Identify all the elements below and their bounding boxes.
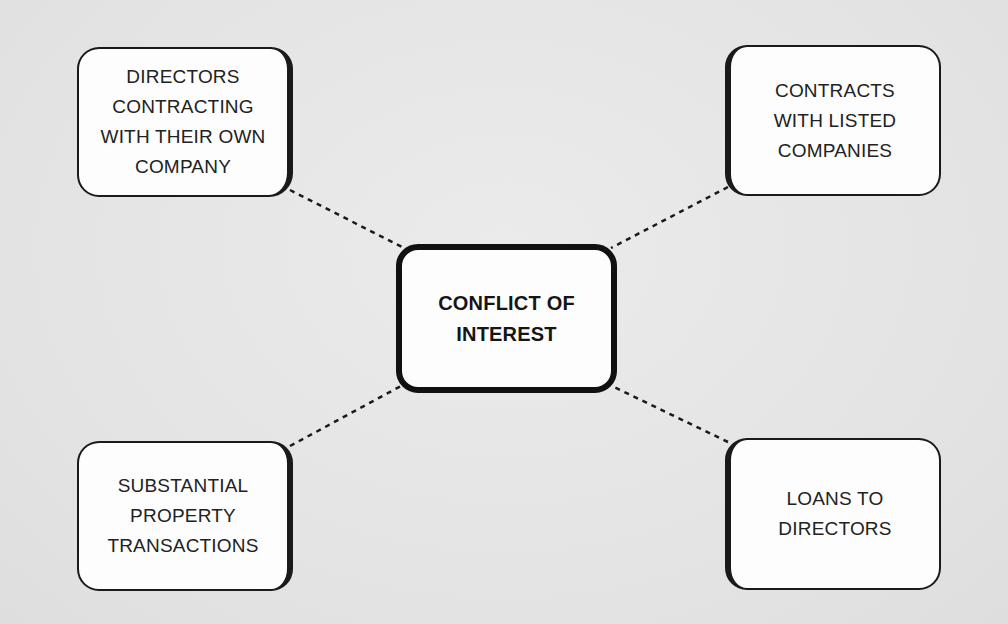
- node-contracts-listed-companies: CONTRACTS WITH LISTED COMPANIES: [725, 45, 941, 196]
- node-loans-to-directors: LOANS TO DIRECTORS: [725, 438, 941, 590]
- connector-bottom-right: [614, 387, 728, 442]
- central-node-label: CONFLICT OF INTEREST: [438, 288, 575, 350]
- node-label: SUBSTANTIAL PROPERTY TRANSACTIONS: [107, 471, 258, 561]
- node-directors-contracting: DIRECTORS CONTRACTING WITH THEIR OWN COM…: [77, 47, 293, 197]
- central-node-conflict-of-interest: CONFLICT OF INTEREST: [396, 244, 617, 393]
- node-label: DIRECTORS CONTRACTING WITH THEIR OWN COM…: [101, 62, 266, 182]
- connector-top-right: [611, 187, 728, 248]
- node-label: LOANS TO DIRECTORS: [778, 484, 891, 544]
- connector-top-left: [290, 190, 402, 247]
- connector-bottom-left: [290, 386, 401, 446]
- node-label: CONTRACTS WITH LISTED COMPANIES: [774, 76, 897, 166]
- node-substantial-property-transactions: SUBSTANTIAL PROPERTY TRANSACTIONS: [77, 441, 293, 591]
